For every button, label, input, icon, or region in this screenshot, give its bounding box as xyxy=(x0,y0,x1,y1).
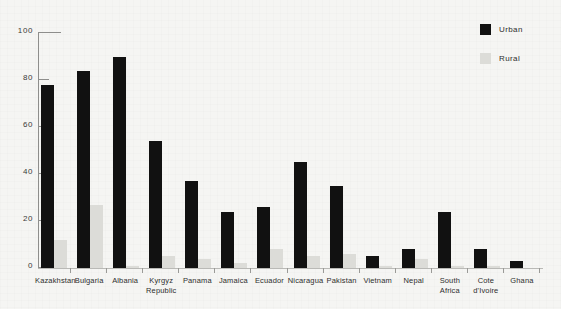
chart-legend: Urban Rural xyxy=(480,24,523,82)
bar-rural xyxy=(343,254,356,268)
x-axis-tick xyxy=(323,268,324,273)
x-axis-tick xyxy=(287,268,288,273)
bar-urban xyxy=(366,256,379,268)
y-axis-tick-label: 0 xyxy=(28,261,33,270)
bar-urban xyxy=(113,57,126,269)
x-axis-category-label: Bulgaria xyxy=(71,276,107,286)
bar-urban xyxy=(149,141,162,268)
legend-label-urban: Urban xyxy=(499,25,523,34)
bar-rural xyxy=(379,266,392,268)
bar-rural xyxy=(307,256,320,268)
bar-group xyxy=(257,207,283,268)
bar-rural xyxy=(90,205,103,268)
bar-group xyxy=(77,71,103,268)
bar-urban xyxy=(402,249,415,268)
bar-group xyxy=(330,186,356,268)
bar-urban xyxy=(294,162,307,268)
x-axis-category-label: Ghana xyxy=(504,276,540,286)
legend-item-urban: Urban xyxy=(480,24,523,35)
legend-label-rural: Rural xyxy=(499,54,520,63)
bar-rural xyxy=(198,259,211,268)
plot-area: 020406080100 xyxy=(38,33,543,268)
x-axis-category-label: Kazakhstan xyxy=(35,276,71,286)
bar-group xyxy=(221,212,247,268)
x-axis-tick xyxy=(70,268,71,273)
x-axis-tick xyxy=(431,268,432,273)
x-axis-tick xyxy=(178,268,179,273)
x-axis-tick xyxy=(395,268,396,273)
y-axis-tick-label: 100 xyxy=(18,26,33,35)
legend-swatch-urban-icon xyxy=(480,24,491,35)
y-axis-tick: 80 xyxy=(38,79,49,80)
y-axis-tick-label: 80 xyxy=(23,73,33,82)
x-axis-category-label: Pakistan xyxy=(324,276,360,286)
bar-rural xyxy=(126,266,139,268)
bar-urban xyxy=(185,181,198,268)
bar-rural xyxy=(415,259,428,268)
x-axis-tick xyxy=(359,268,360,273)
bar-group xyxy=(113,57,139,269)
bar-urban xyxy=(41,85,54,268)
legend-item-rural: Rural xyxy=(480,53,523,64)
x-axis-tick xyxy=(467,268,468,273)
y-axis-tick: 100 xyxy=(38,32,61,33)
bar-rural xyxy=(487,266,500,268)
bar-rural xyxy=(270,249,283,268)
bar-urban xyxy=(330,186,343,268)
bar-group xyxy=(366,256,392,268)
bar-rural xyxy=(451,266,464,268)
x-axis-tick xyxy=(539,268,540,273)
x-axis-category-label: Kyrgyz Republic xyxy=(143,276,179,295)
bar-group xyxy=(185,181,211,268)
x-axis-tick xyxy=(250,268,251,273)
x-axis-category-label: Albania xyxy=(107,276,143,286)
x-axis-category-label: Panama xyxy=(179,276,215,286)
x-axis-tick xyxy=(214,268,215,273)
x-axis-tick xyxy=(142,268,143,273)
bar-urban xyxy=(77,71,90,268)
bar-group xyxy=(474,249,500,268)
x-axis-category-label: South Africa xyxy=(432,276,468,295)
bar-group xyxy=(41,85,67,268)
bar-rural xyxy=(162,256,175,268)
bar-rural xyxy=(234,263,247,268)
y-axis-tick-label: 40 xyxy=(23,167,33,176)
x-axis-category-label: Nepal xyxy=(396,276,432,286)
bar-urban xyxy=(474,249,487,268)
bar-urban xyxy=(221,212,234,268)
x-axis-category-label: Ecuador xyxy=(251,276,287,286)
bar-group xyxy=(294,162,320,268)
x-axis-tick xyxy=(106,268,107,273)
legend-swatch-rural-icon xyxy=(480,53,491,64)
x-axis-tick xyxy=(503,268,504,273)
bar-group xyxy=(149,141,175,268)
x-axis-category-label: Vietnam xyxy=(360,276,396,286)
x-axis-category-label: Nicaragua xyxy=(288,276,324,286)
y-axis-tick-label: 60 xyxy=(23,120,33,129)
bar-urban xyxy=(510,261,523,268)
bar-urban xyxy=(438,212,451,268)
x-axis-category-label: Jamaica xyxy=(215,276,251,286)
bar-group xyxy=(438,212,464,268)
bar-urban xyxy=(257,207,270,268)
y-axis-tick-label: 20 xyxy=(23,214,33,223)
bar-rural xyxy=(54,240,67,268)
x-axis-category-label: Cote d'Ivoire xyxy=(468,276,504,295)
bar-group xyxy=(402,249,428,268)
bar-group xyxy=(510,261,536,268)
bar-chart: 020406080100 Urban Rural KazakhstanBulga… xyxy=(0,0,561,309)
